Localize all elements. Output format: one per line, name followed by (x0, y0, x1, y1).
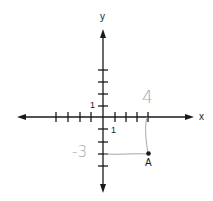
y-axis-label: y (100, 12, 105, 22)
coordinate-plane (0, 0, 213, 201)
point-a-label: A (145, 158, 152, 168)
horizontal-guide-line (104, 154, 148, 155)
x-coordinate-annotation: 4 (142, 89, 153, 106)
y-axis (98, 29, 108, 193)
vertical-guide-line (146, 117, 148, 153)
x-axis-left-arrow-icon (17, 114, 26, 120)
y-coordinate-annotation: -3 (72, 145, 87, 160)
y-axis-up-arrow-icon (100, 29, 106, 38)
y-unit-label: 1 (90, 101, 95, 110)
point-a-marker (146, 151, 151, 156)
x-axis-right-arrow-icon (185, 114, 194, 120)
guide-lines (104, 117, 148, 154)
x-axis (17, 112, 194, 122)
x-unit-label: 1 (111, 126, 116, 135)
y-axis-down-arrow-icon (100, 184, 106, 193)
x-axis-label: x (199, 112, 204, 122)
